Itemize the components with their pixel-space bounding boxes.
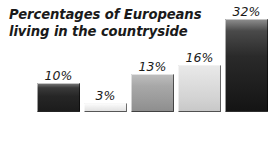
bar-value-label-belgium: 3%: [84, 89, 127, 103]
bar-uk: [37, 83, 80, 112]
bar-group-poland: 32% Poland: [225, 19, 268, 112]
bar-group-uk: 10% UK: [37, 83, 80, 112]
bar-value-label-poland: 32%: [225, 5, 268, 19]
chart-figure: Percentages of Europeans living in the c…: [0, 0, 278, 149]
plot-area: 10% UK 3% Belgium 13% Germany 16% Sweden…: [0, 0, 278, 131]
bar-sweden: [178, 65, 221, 112]
bar-germany: [131, 74, 174, 112]
bar-value-label-sweden: 16%: [178, 51, 221, 65]
bar-group-germany: 13% Germany: [131, 74, 174, 112]
bar-value-label-uk: 10%: [37, 69, 80, 83]
bar-belgium: [84, 103, 127, 112]
bar-group-sweden: 16% Sweden: [178, 65, 221, 112]
bar-poland: [225, 19, 268, 112]
bar-value-label-germany: 13%: [131, 60, 174, 74]
bar-group-belgium: 3% Belgium: [84, 103, 127, 112]
